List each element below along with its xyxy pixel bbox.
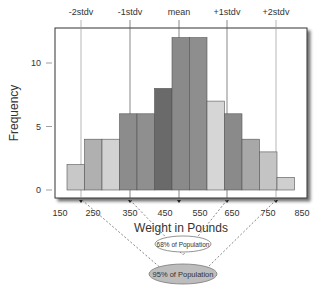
histogram-bar — [120, 114, 138, 190]
stdev-label: -1stdv — [118, 7, 143, 17]
histogram-bar — [260, 152, 278, 190]
x-tick-label: 450 — [157, 208, 172, 218]
x-tick-label: 650 — [224, 208, 239, 218]
histogram-bar — [155, 88, 173, 190]
x-tick-label: 350 — [122, 208, 137, 218]
histogram-bar — [225, 114, 243, 190]
stdev-label: +2stdv — [263, 7, 290, 17]
stdev-labels: -2stdv-1stdvmean+1stdv+2stdv — [69, 7, 290, 17]
y-tick-label: 5 — [36, 122, 41, 132]
stdev-label: -2stdv — [69, 7, 94, 17]
y-axis-label: Frequency — [7, 85, 21, 142]
histogram-bar — [67, 165, 85, 190]
x-tick-label: 750 — [260, 208, 275, 218]
y-tick-label: 10 — [31, 58, 41, 68]
x-tick-label: 550 — [192, 208, 207, 218]
population-connectors — [82, 200, 276, 270]
stdev-label: mean — [168, 7, 191, 17]
histogram-bar — [172, 38, 190, 190]
x-tick-label: 250 — [85, 208, 100, 218]
histogram-chart: 0510 150250350450550650750850 -2stdv-1st… — [0, 0, 322, 291]
annotation-68-text: 68% of Population — [157, 241, 210, 249]
histogram-bar — [207, 101, 225, 190]
histogram-bar — [242, 139, 260, 190]
stdev-label: +1stdv — [214, 7, 241, 17]
histogram-bar — [85, 139, 103, 190]
histogram-bar — [190, 38, 208, 190]
x-tick-label: 850 — [294, 208, 309, 218]
x-axis-label: Weight in Pounds — [134, 221, 228, 235]
x-tick-label: 150 — [52, 208, 67, 218]
y-tick-label: 0 — [36, 185, 41, 195]
histogram-bar — [277, 177, 295, 190]
annotation-95-text: 95% of Population — [153, 270, 214, 279]
histogram-bar — [137, 114, 155, 190]
histogram-bar — [102, 139, 120, 190]
y-axis: 0510 — [31, 58, 52, 195]
x-axis: 150250350450550650750850 — [52, 200, 309, 218]
